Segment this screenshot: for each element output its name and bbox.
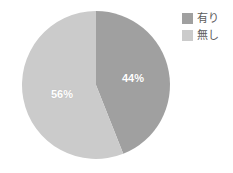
legend-label-nashi: 無し [197,29,219,42]
legend-label-ari: 有り [197,12,219,25]
chart-legend: 有り 無し [182,12,219,42]
pie-chart: 44% 56% 有り 無し [0,0,233,173]
legend-swatch-icon-ari [182,13,193,24]
pie-slice-label-nashi: 56% [51,88,73,100]
legend-item-nashi[interactable]: 無し [182,29,219,42]
pie-slices [22,11,170,159]
pie-slice-label-ari: 44% [122,72,144,84]
legend-swatch-icon-nashi [182,30,193,41]
legend-item-ari[interactable]: 有り [182,12,219,25]
